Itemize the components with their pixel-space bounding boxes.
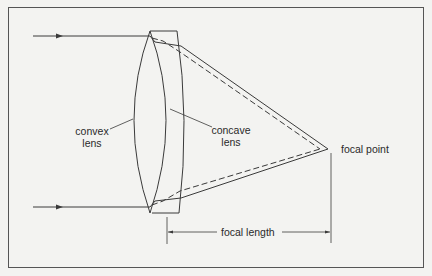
convex-lens-label-line2: lens — [72, 137, 112, 149]
focal-length-label: focal length — [221, 226, 275, 238]
convex-lens — [134, 31, 166, 213]
arrow-right-icon — [56, 34, 63, 39]
focal-point-label: focal point — [341, 143, 389, 155]
arrow-right-icon — [56, 205, 63, 210]
concave-lens-label: concave lens — [208, 124, 254, 148]
refracted-ray-bottom-dashed — [152, 149, 320, 205]
convex-lens-label: convex lens — [72, 125, 112, 149]
convex-leader-line — [110, 119, 133, 129]
arrow-left-icon — [168, 231, 173, 234]
incoming-ray-top — [33, 34, 150, 39]
concave-lens-label-line1: concave — [208, 124, 254, 136]
refracted-ray-bottom-solid — [150, 149, 328, 207]
arrow-right-icon — [325, 231, 330, 234]
incoming-ray-bottom — [33, 205, 150, 210]
convex-lens-label-line1: convex — [72, 125, 112, 137]
concave-leader-line — [170, 109, 212, 127]
concave-lens — [150, 31, 184, 213]
concave-lens-label-line2: lens — [208, 136, 254, 148]
